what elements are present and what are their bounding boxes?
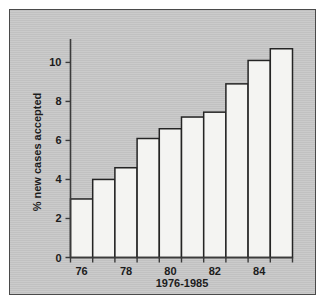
x-tick-label: 76 xyxy=(75,265,87,277)
y-tick-label: 10 xyxy=(49,56,61,68)
bar xyxy=(182,117,204,257)
y-tick-label: 4 xyxy=(55,173,62,185)
bar xyxy=(159,129,181,258)
x-tick-label: 78 xyxy=(120,265,132,277)
bar-series xyxy=(71,49,293,258)
bar xyxy=(137,139,159,258)
bar xyxy=(226,84,248,258)
figure-container: 0246810 7678808284 % new cases accepted … xyxy=(0,0,325,304)
y-axis-title: % new cases accepted xyxy=(31,93,43,212)
bar xyxy=(204,112,226,257)
x-tick-label: 80 xyxy=(164,265,176,277)
bar-chart: 0246810 7678808284 % new cases accepted … xyxy=(0,0,325,304)
x-axis-ticks: 7678808284 xyxy=(71,258,293,277)
x-tick-label: 84 xyxy=(253,265,266,277)
x-axis-title: 1976-1985 xyxy=(156,277,209,289)
y-tick-label: 6 xyxy=(55,134,61,146)
bar xyxy=(270,49,292,258)
bar xyxy=(115,168,137,258)
bar xyxy=(71,199,93,258)
x-tick-label: 82 xyxy=(209,265,221,277)
y-tick-label: 2 xyxy=(55,212,61,224)
y-axis-ticks: 0246810 xyxy=(49,56,70,263)
bar xyxy=(248,60,270,257)
y-tick-label: 0 xyxy=(55,252,61,264)
bar xyxy=(93,179,115,257)
y-tick-label: 8 xyxy=(55,95,61,107)
